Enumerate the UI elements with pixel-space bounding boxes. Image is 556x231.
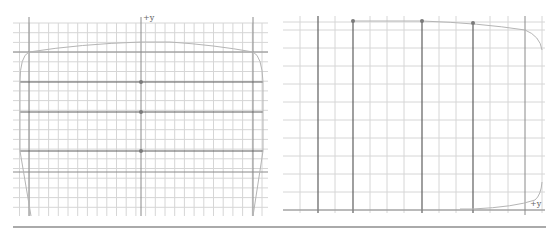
point-marker xyxy=(471,21,475,25)
left-axis-label: +y xyxy=(143,13,155,22)
right-axis-label: +y xyxy=(530,199,542,208)
point-marker xyxy=(420,19,424,23)
point-marker xyxy=(351,19,355,23)
left-axes xyxy=(13,17,268,216)
right-grid xyxy=(283,16,545,213)
diagram-canvas: +y +y xyxy=(0,0,556,231)
right-axes xyxy=(283,16,545,215)
point-marker xyxy=(139,149,143,153)
left-panel: +y xyxy=(13,13,268,216)
point-marker xyxy=(139,110,143,114)
right-panel: +y xyxy=(283,16,545,215)
right-curve xyxy=(353,21,542,209)
point-marker xyxy=(139,80,143,84)
